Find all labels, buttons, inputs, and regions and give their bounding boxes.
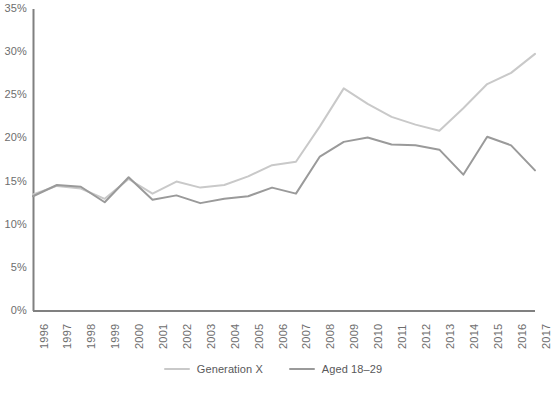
axis-lines	[33, 9, 535, 311]
series-line	[33, 137, 535, 203]
legend-label: Aged 18–29	[322, 363, 382, 375]
legend-label: Generation X	[197, 363, 263, 375]
chart-legend: Generation XAged 18–29	[0, 363, 546, 375]
series-line	[33, 54, 535, 199]
legend-swatch	[164, 368, 190, 370]
legend-entry[interactable]: Generation X	[164, 363, 263, 375]
legend-swatch	[289, 368, 315, 370]
data-series-layer	[33, 54, 535, 203]
legend-entry[interactable]: Aged 18–29	[289, 363, 382, 375]
